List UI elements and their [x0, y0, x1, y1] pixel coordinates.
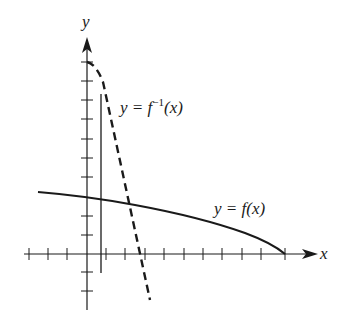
function-inverse-diagram: x y y = f−1(: [0, 0, 345, 328]
x-axis-label: x: [319, 244, 328, 263]
curve-f-label: y = f(x): [212, 199, 265, 218]
y-axis-label: y: [80, 12, 90, 31]
curve-f-inverse-label: y = f−1(x): [118, 96, 183, 117]
